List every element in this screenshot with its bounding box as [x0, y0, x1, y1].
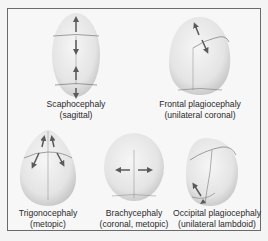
caption-title: Occipital plagiocephaly: [172, 208, 262, 219]
caption-title: Trigonocephaly: [10, 208, 86, 219]
occipital-plagiocephaly-skull-icon: [186, 138, 238, 206]
caption-occipital-plagiocephaly: Occipital plagiocephaly (unilateral lamb…: [172, 208, 262, 230]
caption-title: Frontal plagiocephaly: [150, 99, 250, 110]
caption-subtitle: (coronal, metopic): [90, 219, 178, 230]
frontal-plagiocephaly-skull-icon: [169, 17, 230, 95]
caption-title: Brachycephaly: [90, 208, 178, 219]
scaphocephaly-skull-icon: [52, 13, 100, 97]
caption-brachycephaly: Brachycephaly (coronal, metopic): [90, 208, 178, 230]
caption-frontal-plagiocephaly: Frontal plagiocephaly (unilateral corona…: [150, 99, 250, 121]
trigonocephaly-skull-icon: [20, 130, 76, 206]
caption-title: Scaphocephaly: [36, 99, 116, 110]
brachycephaly-skull-icon: [104, 133, 164, 201]
caption-subtitle: (metopic): [10, 219, 86, 230]
caption-subtitle: (unilateral coronal): [150, 110, 250, 121]
caption-subtitle: (sagittal): [36, 110, 116, 121]
caption-subtitle: (unilateral lambdoid): [172, 219, 262, 230]
caption-scaphocephaly: Scaphocephaly (sagittal): [36, 99, 116, 121]
caption-trigonocephaly: Trigonocephaly (metopic): [10, 208, 86, 230]
